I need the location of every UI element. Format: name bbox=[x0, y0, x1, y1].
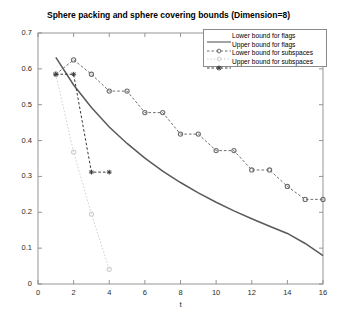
legend-item-upper-bound-subspaces: Upper bound for subspaces bbox=[206, 58, 324, 67]
legend-label: Lower bound for subspaces bbox=[232, 49, 313, 57]
legend-label: Upper bound for subspaces bbox=[232, 58, 313, 66]
y-tick-label: 0.5 bbox=[6, 100, 32, 109]
legend-swatch-dashed-star bbox=[206, 58, 232, 66]
y-tick-label: 0.7 bbox=[6, 28, 32, 37]
x-tick-label: 10 bbox=[206, 288, 226, 297]
x-tick-label: 12 bbox=[242, 288, 262, 297]
y-tick-label: 0.6 bbox=[6, 64, 32, 73]
legend-swatch-solid-line bbox=[206, 32, 232, 40]
legend-item-lower-bound-flags: Lower bound for flags bbox=[206, 32, 324, 41]
legend-item-lower-bound-subspaces: Lower bound for subspaces bbox=[206, 49, 324, 58]
x-tick-label: 16 bbox=[313, 288, 333, 297]
legend-label: Upper bound for flags bbox=[232, 41, 295, 49]
y-tick-label: 0.2 bbox=[6, 207, 32, 216]
x-tick-label: 6 bbox=[135, 288, 155, 297]
figure-canvas: Sphere packing and sphere covering bound… bbox=[0, 0, 337, 321]
x-tick-label: 14 bbox=[277, 288, 297, 297]
x-tick-label: 8 bbox=[171, 288, 191, 297]
y-tick-label: 0.3 bbox=[6, 171, 32, 180]
legend-swatch-dotted-circle bbox=[206, 49, 232, 57]
chart-legend: Lower bound for flags Upper bound for fl… bbox=[203, 29, 327, 67]
legend-label: Lower bound for flags bbox=[232, 32, 295, 40]
x-axis-label: t bbox=[161, 300, 201, 309]
x-tick-label: 4 bbox=[99, 288, 119, 297]
y-tick-label: 0.1 bbox=[6, 243, 32, 252]
legend-item-upper-bound-flags: Upper bound for flags bbox=[206, 41, 324, 50]
y-tick-label: 0.4 bbox=[6, 136, 32, 145]
y-tick-label: 0 bbox=[6, 279, 32, 288]
legend-swatch-dashed-circle bbox=[206, 41, 232, 49]
x-tick-label: 2 bbox=[64, 288, 84, 297]
x-tick-label: 0 bbox=[28, 288, 48, 297]
